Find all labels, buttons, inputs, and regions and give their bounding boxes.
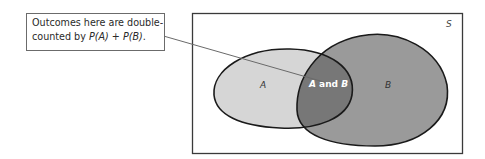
set-a-label: A (260, 80, 266, 90)
intersection-label-and: and (316, 79, 341, 89)
set-b-label: B (385, 80, 391, 90)
callout-box: Outcomes here are double- counted by P(A… (26, 13, 165, 51)
plus-sign: + (109, 31, 123, 42)
callout-text: counted by (32, 31, 89, 42)
period: . (143, 31, 146, 42)
probability-b: P(B) (123, 31, 143, 42)
intersection-label: A and B (309, 79, 348, 89)
sample-space-label: S (446, 19, 452, 29)
callout-line-1: Outcomes here are double- (32, 17, 163, 28)
probability-a: P(A) (89, 31, 109, 42)
callout-line-2: counted by P(A) + P(B). (32, 30, 164, 44)
intersection-label-b: B (341, 79, 348, 89)
intersection-label-a: A (309, 79, 316, 89)
